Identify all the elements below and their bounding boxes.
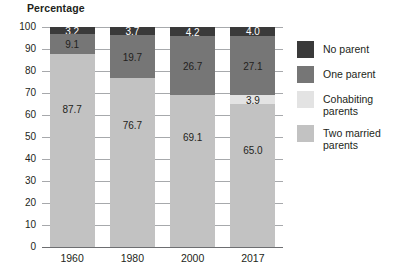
bar-1960[interactable]: 3.29.187.7: [50, 27, 95, 247]
y-axis-tick-label: 70: [0, 88, 36, 98]
y-axis-tick-label: 60: [0, 110, 36, 120]
legend-swatch-icon: [297, 66, 314, 83]
y-axis-tick-label: 50: [0, 132, 36, 142]
x-axis-tick-label: 1980: [102, 252, 162, 264]
segment-value-label: 87.7: [50, 103, 95, 114]
segment-two-married-parents[interactable]: 87.7: [50, 54, 95, 247]
bar-2000[interactable]: 4.226.769.1: [170, 27, 215, 247]
segment-cohabiting-parents[interactable]: 3.9: [230, 95, 275, 104]
legend-item[interactable]: Two married parents: [297, 125, 392, 151]
y-axis-tick-label: 100: [0, 22, 36, 32]
y-axis-tick-label: 0: [0, 242, 36, 252]
segment-two-married-parents[interactable]: 65.0: [230, 104, 275, 247]
y-axis-tick-label: 20: [0, 198, 36, 208]
legend-swatch-icon: [297, 125, 314, 142]
segment-value-label: 19.7: [110, 51, 155, 62]
chart-legend: No parentOne parentCohabiting parentsTwo…: [297, 41, 392, 159]
segment-value-label: 65.0: [230, 144, 275, 155]
x-axis-line: [42, 247, 283, 248]
legend-item[interactable]: No parent: [297, 41, 392, 58]
legend-label: No parent: [323, 41, 369, 55]
segment-no-parent[interactable]: 3.2: [50, 27, 95, 34]
legend-label: One parent: [323, 66, 376, 80]
segment-one-parent[interactable]: 26.7: [170, 36, 215, 95]
legend-label: Two married parents: [323, 125, 392, 151]
chart-container: Percentage 1009080706050403020100 3.29.1…: [0, 0, 394, 274]
legend-item[interactable]: Cohabiting parents: [297, 91, 392, 117]
x-axis-tick-label: 2017: [223, 252, 283, 264]
segment-value-label: 76.7: [110, 119, 155, 130]
chart-title: Percentage: [27, 2, 85, 14]
legend-swatch-icon: [297, 41, 314, 58]
segment-two-married-parents[interactable]: 69.1: [170, 95, 215, 247]
y-axis-tick-label: 30: [0, 176, 36, 186]
y-axis-tick-label: 90: [0, 44, 36, 54]
segment-two-married-parents[interactable]: 76.7: [110, 78, 155, 247]
segment-value-label: 9.1: [50, 39, 95, 50]
plot-area: 3.29.187.73.719.776.74.226.769.14.027.13…: [42, 27, 283, 247]
segment-value-label: 26.7: [170, 60, 215, 71]
segment-one-parent[interactable]: 19.7: [110, 35, 155, 78]
segment-no-parent[interactable]: 4.2: [170, 27, 215, 36]
segment-one-parent[interactable]: 9.1: [50, 34, 95, 54]
y-axis-tick-label: 10: [0, 220, 36, 230]
y-axis-tick-label: 40: [0, 154, 36, 164]
legend-item[interactable]: One parent: [297, 66, 392, 83]
bar-2017[interactable]: 4.027.13.965.0: [230, 27, 275, 247]
segment-one-parent[interactable]: 27.1: [230, 36, 275, 96]
legend-swatch-icon: [297, 91, 314, 108]
legend-label: Cohabiting parents: [323, 91, 392, 117]
x-axis-tick-label: 2000: [163, 252, 223, 264]
segment-value-label: 27.1: [230, 60, 275, 71]
segment-no-parent[interactable]: 4.0: [230, 27, 275, 36]
segment-no-parent[interactable]: 3.7: [110, 27, 155, 35]
bar-1980[interactable]: 3.719.776.7: [110, 27, 155, 247]
y-axis-tick-label: 80: [0, 66, 36, 76]
segment-value-label: 69.1: [170, 131, 215, 142]
x-axis-tick-label: 1960: [42, 252, 102, 264]
